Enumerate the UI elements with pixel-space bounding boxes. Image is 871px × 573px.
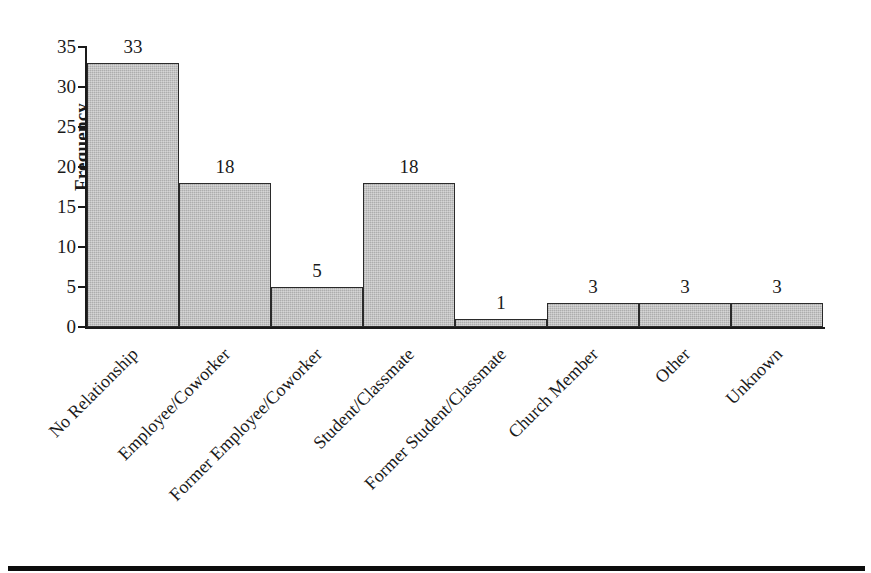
- bar[interactable]: [271, 287, 363, 327]
- y-axis-tick-label: 30: [42, 77, 76, 96]
- bar[interactable]: [639, 303, 731, 327]
- bar-value-label: 3: [731, 277, 823, 296]
- bar-value-label: 33: [87, 37, 179, 56]
- bar[interactable]: [731, 303, 823, 327]
- figure-container: Frequency 05101520253035 33185181333 No …: [0, 0, 871, 573]
- bar[interactable]: [455, 319, 547, 327]
- bar[interactable]: [87, 63, 179, 327]
- x-axis-line: [85, 327, 825, 329]
- y-axis-tick-label: 20: [42, 157, 76, 176]
- y-axis-tick-label: 5: [42, 277, 76, 296]
- bar-value-label: 5: [271, 261, 363, 280]
- y-axis-tick-label: 35: [42, 37, 76, 56]
- y-axis-tick-labels: 05101520253035: [42, 0, 76, 573]
- x-axis-category-label-slot: Unknown: [479, 341, 779, 361]
- bar-value-label: 3: [639, 277, 731, 296]
- y-axis-tick-label: 10: [42, 237, 76, 256]
- bar-value-label: 3: [547, 277, 639, 296]
- bar-value-label: 1: [455, 293, 547, 312]
- y-axis-tick-label: 15: [42, 197, 76, 216]
- bar-chart-plot: Frequency 05101520253035 33185181333 No …: [0, 0, 871, 573]
- y-axis-tick-label: 0: [42, 317, 76, 336]
- y-axis-tick-label: 25: [42, 117, 76, 136]
- bottom-rule-divider: [8, 566, 865, 571]
- bar[interactable]: [179, 183, 271, 327]
- bar-value-label: 18: [179, 157, 271, 176]
- bar[interactable]: [363, 183, 455, 327]
- bar-value-label: 18: [363, 157, 455, 176]
- bar[interactable]: [547, 303, 639, 327]
